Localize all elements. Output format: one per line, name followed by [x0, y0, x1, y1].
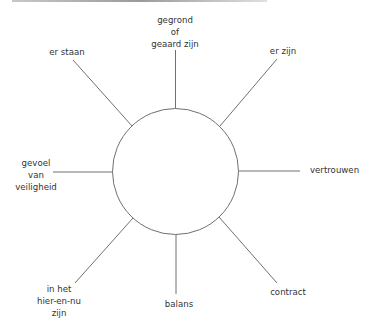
label-line: er staan [49, 46, 84, 58]
label-line: gevoel [15, 157, 57, 169]
label-left: gevoel van veiligheid [15, 157, 57, 193]
spoke-top-right [220, 59, 277, 126]
center-circle [113, 109, 239, 235]
label-right: vertrouwen [310, 164, 359, 176]
label-top: gegrond of geaard zijn [151, 14, 199, 50]
spoke-bottom-left [75, 218, 133, 283]
label-line: of [151, 26, 199, 38]
label-line: in het [37, 283, 81, 295]
label-top-right: er zijn [270, 45, 296, 57]
label-line: zijn [37, 307, 81, 319]
label-line: er zijn [270, 45, 296, 57]
label-top-left: er staan [49, 46, 84, 58]
spoke-bottom-right [219, 217, 277, 283]
label-bottom-left: in het hier-en-nu zijn [37, 283, 81, 319]
label-line: van [15, 169, 57, 181]
label-bottom-right: contract [270, 286, 306, 298]
label-line: balans [165, 298, 193, 310]
label-line: gegrond [151, 14, 199, 26]
label-bottom: balans [165, 298, 193, 310]
label-line: geaard zijn [151, 38, 199, 50]
label-line: veiligheid [15, 181, 57, 193]
label-line: vertrouwen [310, 164, 359, 176]
label-line: hier-en-nu [37, 295, 81, 307]
spoke-top-left [73, 60, 132, 126]
label-line: contract [270, 286, 306, 298]
